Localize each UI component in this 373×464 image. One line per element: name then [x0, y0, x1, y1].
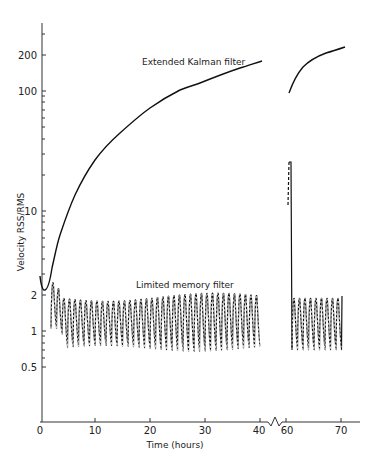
chart-canvas: 200 100 10 2 1 0.5 0 10 20 30 40 60 70 T…	[0, 0, 373, 464]
x-tick-70: 70	[335, 425, 348, 436]
ekf-series	[40, 47, 345, 290]
lmf-curve-right	[292, 296, 342, 350]
x-tick-20: 20	[144, 425, 157, 436]
y-tick-2: 2	[31, 290, 37, 301]
lmf-label: Limited memory filter	[136, 280, 234, 290]
lmf-series	[51, 162, 342, 351]
lmf-spike-solid	[289, 162, 292, 350]
x-axis-title: Time (hours)	[145, 440, 203, 450]
x-tick-60: 60	[281, 425, 294, 436]
ekf-label: Extended Kalman filter	[142, 57, 245, 67]
x-tick-10: 10	[89, 425, 102, 436]
y-axis-title: Velocity RSS/RMS	[16, 192, 26, 271]
x-tick-30: 30	[199, 425, 212, 436]
ekf-curve-right	[289, 47, 345, 93]
y-tick-1: 1	[31, 326, 37, 337]
y-tick-100: 100	[18, 86, 37, 97]
x-tick-40: 40	[253, 425, 266, 436]
ekf-curve-left	[40, 61, 262, 290]
y-tick-0-5: 0.5	[21, 362, 37, 373]
x-tick-0: 0	[37, 425, 43, 436]
y-axis	[42, 23, 46, 422]
y-tick-200: 200	[18, 50, 37, 61]
y-tick-10: 10	[24, 206, 37, 217]
lmf-spike-dashed	[288, 162, 289, 205]
x-tick-labels: 0 10 20 30 40 60 70	[37, 425, 348, 436]
lmf-curve-left	[51, 283, 260, 351]
